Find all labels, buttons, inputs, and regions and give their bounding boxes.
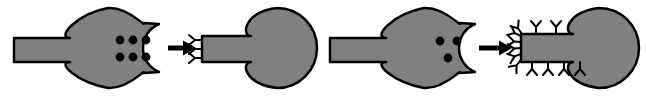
product-low-marker-density	[189, 8, 317, 88]
marker-arms	[543, 69, 553, 75]
ligand-dot-1	[116, 36, 125, 45]
marker-arms	[531, 21, 541, 27]
ligand-dot-3	[142, 36, 151, 45]
bulb-body	[521, 8, 639, 88]
marker-arms	[551, 21, 561, 27]
product-high-marker-density	[507, 8, 639, 88]
ligand-dot-2	[453, 37, 462, 46]
ligand-dot-1	[436, 37, 445, 46]
marker-arms	[507, 52, 516, 63]
ligand-dot-2	[129, 36, 138, 45]
ligand-dot-5	[129, 53, 138, 62]
marker-stem	[514, 41, 521, 42]
antibody-marker-1	[531, 21, 541, 34]
antibody-marker-1	[189, 35, 202, 45]
marker-stem	[514, 48, 521, 49]
antibody-marker-10	[543, 62, 553, 75]
ligand-dot-4	[116, 53, 125, 62]
diagram-canvas	[0, 0, 646, 96]
marker-arms	[527, 69, 537, 75]
bulb-body	[202, 8, 317, 88]
receptor-body	[14, 8, 159, 88]
marker-arms	[189, 53, 195, 63]
receptor-high-density	[14, 8, 159, 88]
ligand-dot-6	[142, 53, 151, 62]
ligand-dot-3	[444, 54, 453, 63]
receptor-low-density	[330, 8, 475, 88]
antibody-marker-9	[527, 62, 537, 75]
antibody-marker-3	[189, 53, 202, 63]
antibody-marker-2	[551, 21, 561, 34]
marker-stem	[518, 28, 522, 34]
schematic-diagram	[0, 0, 646, 96]
receptor-body	[330, 8, 475, 88]
